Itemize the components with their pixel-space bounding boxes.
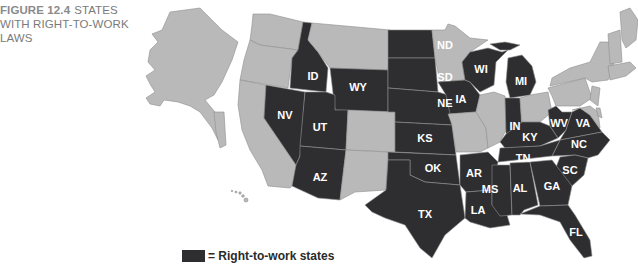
- label-fl: FL: [569, 226, 583, 238]
- label-va: VA: [576, 117, 591, 129]
- state-vt-nh: [608, 30, 622, 64]
- label-la: LA: [471, 204, 486, 216]
- label-ne: NE: [437, 97, 452, 109]
- state-sd: [388, 58, 438, 92]
- state-hi: [231, 190, 248, 202]
- state-nm: [340, 150, 388, 200]
- map-legend: = Right-to-work states: [182, 249, 334, 263]
- label-ut: UT: [313, 121, 328, 133]
- state-co: [346, 110, 395, 152]
- state-oh: [520, 92, 552, 122]
- label-al: AL: [513, 182, 528, 194]
- label-ks: KS: [417, 132, 432, 144]
- label-sc: SC: [562, 164, 577, 176]
- label-wy: WY: [349, 81, 367, 93]
- label-wi: WI: [474, 63, 487, 75]
- state-nj: [590, 86, 600, 106]
- legend-swatch: [182, 250, 205, 262]
- label-mi: MI: [515, 75, 527, 87]
- label-nd: ND: [437, 39, 453, 51]
- label-ar: AR: [466, 167, 482, 179]
- us-map: ND SD NE IA WI MI IN ID WY NV UT AZ KS O…: [0, 0, 638, 264]
- label-nv: NV: [277, 109, 293, 121]
- label-tn: TN: [516, 152, 531, 164]
- state-nd: [388, 30, 435, 58]
- label-nc: NC: [571, 138, 587, 150]
- label-ky: KY: [522, 131, 538, 143]
- legend-label: = Right-to-work states: [208, 249, 334, 263]
- label-sd: SD: [437, 71, 452, 83]
- state-me: [620, 8, 638, 48]
- label-ia: IA: [456, 93, 467, 105]
- label-ok: OK: [425, 162, 442, 174]
- label-in: IN: [510, 120, 521, 132]
- label-ga: GA: [544, 180, 561, 192]
- label-tx: TX: [418, 208, 433, 220]
- label-ms: MS: [482, 183, 499, 195]
- label-wv: WV: [550, 117, 568, 129]
- state-ak-panhandle: [214, 112, 226, 148]
- label-az: AZ: [313, 171, 328, 183]
- label-id: ID: [308, 70, 319, 82]
